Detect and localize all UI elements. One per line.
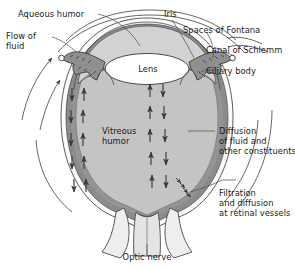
label-spaces-of-fontana: Spaces of Fontana <box>183 25 260 35</box>
label-filtration-line1: Filtration <box>219 188 256 198</box>
label-diffusion-line2: of fluid and <box>219 136 267 146</box>
label-aqueous-humor: Aqueous humor <box>18 9 84 19</box>
label-flow-of-fluid-line1: Flow of <box>6 31 36 41</box>
label-vitreous-humor-line1: Vitreous <box>102 126 136 136</box>
label-filtration-line3: at retinal vessels <box>219 208 290 218</box>
label-vitreous-humor-line2: humor <box>102 136 129 146</box>
label-diffusion-line3: other constituents <box>219 146 295 156</box>
eye-fluid-diagram: Aqueous humor Flow of fluid Iris Spaces … <box>0 0 295 269</box>
label-filtration-line2: and diffusion <box>219 198 274 208</box>
label-ciliary-body: Ciliary body <box>206 66 256 76</box>
label-diffusion-line1: Diffusion <box>219 126 256 136</box>
label-iris: Iris <box>164 9 177 19</box>
label-canal-of-schlemm: Canal of Schlemm <box>206 45 282 55</box>
label-lens: Lens <box>127 64 169 74</box>
label-flow-of-fluid-line2: fluid <box>6 41 24 51</box>
label-optic-nerve: Optic nerve <box>112 252 182 262</box>
